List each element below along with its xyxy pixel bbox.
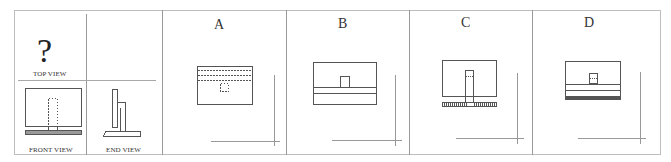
- option-b-drawing: [314, 63, 403, 147]
- option-d-drawing: [566, 62, 647, 145]
- option-a-label[interactable]: A: [214, 17, 224, 33]
- option-d-label[interactable]: D: [584, 15, 594, 31]
- option-b-label[interactable]: B: [338, 16, 347, 32]
- option-c-drawing: [443, 61, 525, 145]
- drawings: [0, 0, 671, 162]
- option-c-label[interactable]: C: [461, 15, 470, 31]
- option-a-drawing: [198, 67, 281, 147]
- front-view-drawing: [26, 89, 82, 135]
- end-view-drawing: [104, 90, 141, 137]
